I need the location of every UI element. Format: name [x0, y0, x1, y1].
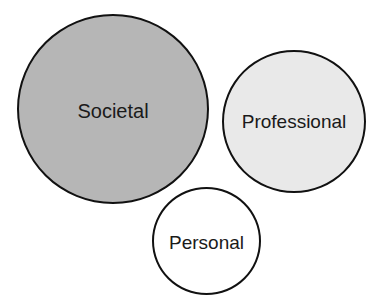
professional-circle: Professional: [222, 50, 366, 193]
professional-label: Professional: [242, 111, 347, 133]
personal-label: Personal: [169, 232, 244, 254]
societal-label: Societal: [77, 100, 148, 123]
societal-circle: Societal: [17, 14, 209, 204]
personal-circle: Personal: [152, 187, 261, 295]
